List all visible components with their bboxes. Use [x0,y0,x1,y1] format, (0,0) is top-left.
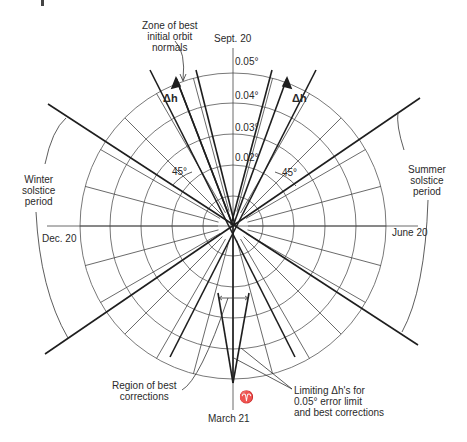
radial-line [100,150,220,219]
winter-arc-bottom [36,212,68,338]
limiting-v-left [218,293,233,383]
zone-line-2: initial orbit [142,31,198,42]
summer-line-2: solstice [408,175,446,186]
ring-label-003: 0.03° [235,122,258,133]
arrowhead [172,78,180,88]
summer-arc-top [398,112,404,150]
summer-solstice-label: Summer solstice period [408,164,446,197]
limiting-v-right [233,293,249,383]
limiting-line-3: and best corrections [294,407,384,418]
radial-line [241,239,310,359]
zone-best-normals-label: Zone of best initial orbit normals [142,20,198,53]
winter-line-3: period [22,196,55,207]
bold-lines [45,70,420,383]
limiting-line-1: Limiting Δh's for [294,385,384,396]
winter-line-2: solstice [22,185,55,196]
angle-45-right: 45° [282,167,297,178]
angle-45-left: 45° [172,166,187,177]
limiting-leader [232,357,292,389]
label-march-21: March 21 [208,413,250,424]
region-line-1: Region of best [112,380,177,391]
winter-solstice-label: Winter solstice period [22,174,55,207]
region-best-corrections-label: Region of best corrections [112,380,177,402]
zone-line-1: Zone of best [142,20,198,31]
aries-symbol: ♈ [239,392,254,403]
winter-line-1: Winter [22,174,55,185]
delta-h-left: Δh [163,92,178,104]
limiting-leader [241,348,292,389]
label-dec-20: Dec. 20 [42,233,76,244]
ring-label-004: 0.04° [235,90,258,101]
radial-line [157,93,226,213]
ring-label-002: 0.02° [235,152,258,163]
summer-arc-bottom [402,200,428,332]
arrowhead [283,78,291,88]
radial-line [100,234,220,303]
winter-arc-top [45,118,66,164]
region-line-2: corrections [112,391,177,402]
zone-line-3: normals [142,42,198,53]
label-sept-20: Sept. 20 [214,33,251,44]
radial-line [157,239,226,359]
summer-line-1: Summer [408,164,446,175]
summer-line-3: period [408,186,446,197]
radial-line [246,150,366,219]
ring-label-005: 0.05° [235,56,258,67]
delta-h-right: Δh [292,92,307,104]
label-june-20: June 20 [392,227,428,238]
limiting-dh-label: Limiting Δh's for 0.05° error limit and … [294,385,384,418]
limiting-line-2: 0.05° error limit [294,396,384,407]
polar-diagram [0,0,467,442]
zone-line [170,70,316,357]
